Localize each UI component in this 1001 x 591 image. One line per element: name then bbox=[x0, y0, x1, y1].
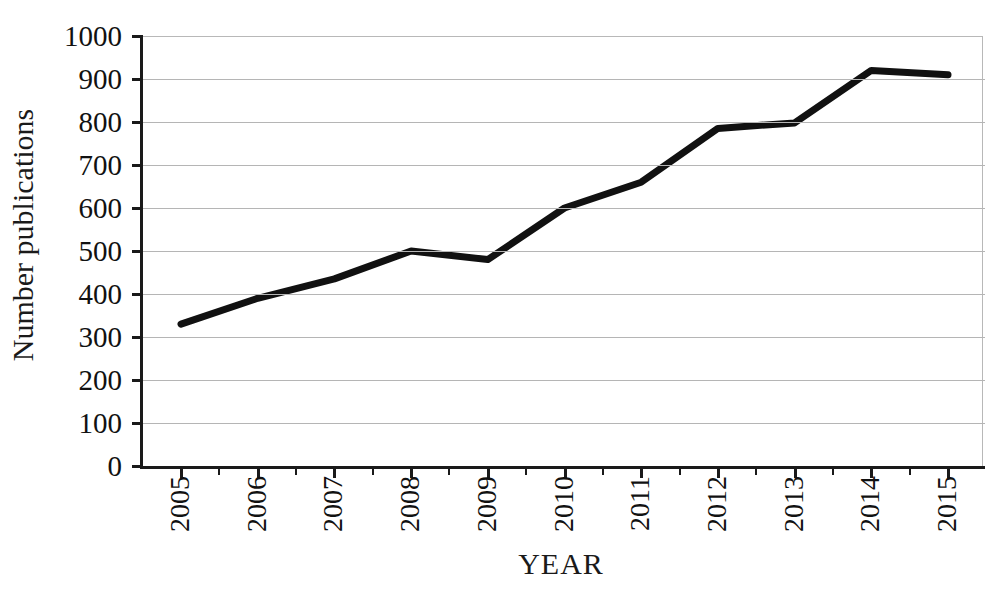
y-axis-tick-label: 500 bbox=[79, 237, 123, 266]
y-axis-tick-mark bbox=[132, 465, 143, 468]
y-axis-tick-mark bbox=[132, 250, 143, 253]
gridline-horizontal bbox=[143, 251, 985, 252]
y-axis-title-text: Number publications bbox=[6, 109, 40, 361]
y-axis-tick-mark bbox=[132, 422, 143, 425]
gridline-horizontal bbox=[143, 380, 985, 381]
x-axis-tick-label-text: 2005 bbox=[164, 476, 196, 532]
y-axis-tick-mark bbox=[132, 78, 143, 81]
y-axis-tick-mark bbox=[132, 121, 143, 124]
gridline-horizontal bbox=[143, 208, 985, 209]
y-axis-tick-label: 800 bbox=[79, 108, 123, 137]
gridline-horizontal bbox=[143, 294, 985, 295]
y-axis-tick-label: 700 bbox=[79, 151, 123, 180]
x-axis-tick-label-text: 2009 bbox=[471, 476, 503, 532]
x-axis-tick-label-text: 2010 bbox=[548, 476, 580, 532]
y-axis-tick-label: 400 bbox=[79, 280, 123, 309]
y-axis-tick-label: 900 bbox=[79, 65, 123, 94]
y-axis-tick-label: 300 bbox=[79, 323, 123, 352]
y-axis-tick-label: 600 bbox=[79, 194, 123, 223]
x-axis-tick-label-text: 2011 bbox=[624, 476, 656, 531]
plot-area bbox=[140, 36, 985, 469]
y-axis-tick-mark bbox=[132, 293, 143, 296]
y-axis-tick-mark bbox=[132, 207, 143, 210]
gridline-horizontal bbox=[143, 165, 985, 166]
y-axis-tick-label: 200 bbox=[79, 366, 123, 395]
y-axis-tick-label: 100 bbox=[79, 409, 123, 438]
x-axis-tick-label-text: 2013 bbox=[778, 476, 810, 532]
y-axis-tick-label: 0 bbox=[108, 452, 123, 481]
x-axis-title: YEAR bbox=[140, 547, 982, 581]
x-axis-tick-label-text: 2007 bbox=[317, 476, 349, 532]
x-axis-tick-label-text: 2006 bbox=[241, 476, 273, 532]
y-axis-tick-mark bbox=[132, 336, 143, 339]
y-axis-tick-mark bbox=[132, 35, 143, 38]
x-axis-tick-labels: 2005200620072008200920102011201220132014… bbox=[140, 472, 982, 552]
x-axis-tick-label-text: 2015 bbox=[931, 476, 963, 532]
publications-per-year-line-chart: Number publications 10009008007006005004… bbox=[0, 0, 1001, 591]
series-polyline bbox=[181, 70, 948, 324]
x-axis-tick-label-text: 2012 bbox=[701, 476, 733, 532]
x-axis-tick-label-text: 2014 bbox=[854, 476, 886, 532]
gridline-horizontal bbox=[143, 122, 985, 123]
gridline-horizontal bbox=[143, 79, 985, 80]
y-axis-tick-mark bbox=[132, 379, 143, 382]
y-axis-tick-label: 1000 bbox=[64, 22, 122, 51]
y-axis-tick-labels: 10009008007006005004003002001000 bbox=[44, 0, 130, 500]
gridline-horizontal bbox=[143, 423, 985, 424]
y-axis-tick-mark bbox=[132, 164, 143, 167]
y-axis-title: Number publications bbox=[0, 0, 46, 470]
x-axis-tick-label-text: 2008 bbox=[394, 476, 426, 532]
gridline-horizontal bbox=[143, 337, 985, 338]
